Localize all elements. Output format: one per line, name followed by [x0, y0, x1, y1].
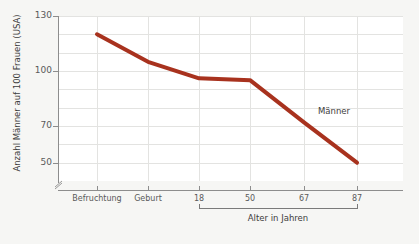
y-axis-title: Anzahl Männer auf 100 Frauen (USA): [12, 0, 22, 188]
x-tick-label-geburt: Geburt: [134, 194, 162, 203]
plot-area: [58, 16, 403, 181]
gridline-y-70: [58, 126, 403, 127]
y-tick-label-130: 130: [22, 11, 52, 20]
gridline-y-100: [58, 71, 403, 72]
gridline-x-18: [199, 16, 200, 181]
y-tick-50: [53, 163, 58, 164]
y-tick-label-70: 70: [22, 121, 52, 130]
x-tick-18: [199, 186, 200, 191]
x-tick-87: [357, 186, 358, 191]
gridline-y-110: [58, 53, 403, 54]
axis-break-icon: [53, 178, 65, 190]
series-annotation-maenner: Männer: [318, 106, 350, 116]
x-tick-geburt: [148, 186, 149, 191]
gridline-x-87: [357, 16, 358, 181]
x-tick-67: [304, 186, 305, 191]
x-tick-label-67: 67: [299, 194, 309, 203]
gridline-x-67: [304, 16, 305, 181]
x-axis-line: [58, 190, 403, 191]
x-tick-label-18: 18: [194, 194, 204, 203]
y-tick-70: [53, 126, 58, 127]
y-axis-line: [58, 16, 59, 183]
x-tick-50: [250, 186, 251, 191]
gridline-y-80: [58, 108, 403, 109]
gridline-x-50: [250, 16, 251, 181]
gridline-y-60: [58, 144, 403, 145]
bracket-tip-left: [199, 204, 200, 209]
y-tick-label-100: 100: [22, 66, 52, 75]
gridline-y-130: [58, 16, 403, 17]
gridline-x-befruchtung: [97, 16, 98, 181]
line-chart: 1301007050 BefruchtungGeburt18506787 Anz…: [0, 0, 419, 244]
bracket-line: [199, 208, 357, 209]
x-tick-label-befruchtung: Befruchtung: [72, 194, 121, 203]
x-tick-label-87: 87: [352, 194, 362, 203]
y-tick-130: [53, 16, 58, 17]
gridline-y-120: [58, 34, 403, 35]
y-tick-label-50: 50: [22, 158, 52, 167]
gridline-x-geburt: [148, 16, 149, 181]
x-tick-befruchtung: [97, 186, 98, 191]
x-tick-label-50: 50: [245, 194, 255, 203]
gridline-y-90: [58, 89, 403, 90]
gridline-y-50: [58, 163, 403, 164]
bracket-tip-right: [357, 204, 358, 209]
y-tick-100: [53, 71, 58, 72]
x-axis-title: Alter in Jahren: [248, 213, 308, 223]
